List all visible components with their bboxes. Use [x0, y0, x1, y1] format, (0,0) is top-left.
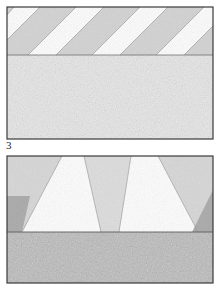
speckled-base-band-texture [7, 232, 213, 283]
upper-specimen-panel [0, 7, 220, 139]
wedge-band-texture [7, 156, 213, 232]
striped-band-texture [7, 7, 213, 55]
speckled-band-texture [7, 55, 213, 139]
speckled-base-band [7, 232, 213, 283]
figure-label: 3 [6, 139, 12, 152]
figure-container: 3 [0, 0, 220, 290]
wedge-band [7, 156, 213, 232]
striped-band [0, 7, 220, 55]
speckled-band [7, 55, 213, 139]
specimen-figure-svg [0, 0, 220, 290]
lower-specimen-panel [7, 156, 213, 283]
